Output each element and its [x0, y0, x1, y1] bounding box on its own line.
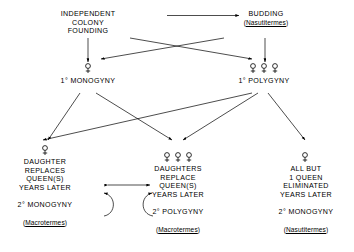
- node-secondary-monogyny-left[interactable]: DAUGHTER REPLACES QUEEN(S) YEARS LATER 2…: [2, 158, 88, 228]
- primary-polygyny-label: 1° POLYGYNY: [224, 77, 304, 86]
- left-box-outcome: 2° MONOGYNY: [2, 201, 88, 210]
- node-secondary-monogyny-right[interactable]: ALL BUT 1 QUEEN ELIMINATED YEARS LATER 2…: [262, 165, 350, 235]
- middle-box-genus: (Macrotermes): [134, 226, 222, 235]
- middle-box-genus-name: Macrotermes: [158, 226, 198, 233]
- female-symbol: [176, 153, 181, 162]
- independent-founding-line-2: COLONY: [55, 19, 121, 28]
- budding-label: BUDDING: [235, 10, 297, 19]
- left-box-line-4: YEARS LATER: [2, 184, 88, 193]
- right-box-line-2: 1 QUEEN: [262, 174, 350, 183]
- middle-box-line-1: DAUGHTERS: [134, 165, 222, 174]
- node-primary-monogyny[interactable]: 1° MONOGYNY: [48, 77, 128, 86]
- female-symbol: [187, 153, 192, 162]
- female-symbol: [43, 146, 48, 155]
- budding-genus-name: Nasutitermes: [246, 19, 286, 26]
- edge-monogyny-to-middle-box: [96, 93, 172, 140]
- right-box-line-3: ELIMINATED: [262, 182, 350, 191]
- node-budding[interactable]: BUDDING (Nasutitermes): [235, 10, 297, 27]
- edge-left-box-loop: [104, 193, 113, 216]
- female-symbol: [251, 64, 256, 73]
- female-symbol: [262, 64, 267, 73]
- right-box-line-1: ALL BUT: [262, 165, 350, 174]
- edge-independent-to-polygyny: [130, 38, 252, 59]
- edge-budding-to-monogyny: [101, 38, 224, 59]
- left-box-genus-name: Macrotermes: [25, 219, 65, 226]
- budding-genus: (Nasutitermes): [235, 19, 297, 28]
- female-symbol: [273, 64, 278, 73]
- primary-monogyny-label: 1° MONOGYNY: [48, 77, 128, 86]
- middle-box-outcome: 2° POLYGYNY: [134, 208, 222, 217]
- node-independent-colony-founding[interactable]: INDEPENDENT COLONY FOUNDING: [55, 10, 121, 36]
- female-symbol: [165, 153, 170, 162]
- right-box-genus-name: Nasutitermes: [286, 226, 326, 233]
- edge-polygyny-to-right-box: [268, 93, 305, 140]
- left-box-line-2: REPLACES: [2, 167, 88, 176]
- node-secondary-polygyny-middle[interactable]: DAUGHTERS REPLACE QUEEN(S) YEARS LATER 2…: [134, 165, 222, 235]
- female-symbol: [303, 153, 308, 162]
- left-box-line-3: QUEEN(S): [2, 175, 88, 184]
- independent-founding-line-1: INDEPENDENT: [55, 10, 121, 19]
- independent-founding-line-3: FOUNDING: [55, 27, 121, 36]
- right-box-line-4: YEARS LATER: [262, 191, 350, 200]
- middle-box-line-4: YEARS LATER: [134, 191, 222, 200]
- right-box-outcome: 2° MONOGYNY: [262, 208, 350, 217]
- female-symbol: [86, 64, 91, 73]
- right-box-genus: (Nasutitermes): [262, 226, 350, 235]
- node-primary-polygyny[interactable]: 1° POLYGYNY: [224, 77, 304, 86]
- left-box-line-1: DAUGHTER: [2, 158, 88, 167]
- middle-box-line-2: REPLACE: [134, 174, 222, 183]
- left-box-genus: (Macrotermes): [2, 219, 88, 228]
- middle-box-line-3: QUEEN(S): [134, 182, 222, 191]
